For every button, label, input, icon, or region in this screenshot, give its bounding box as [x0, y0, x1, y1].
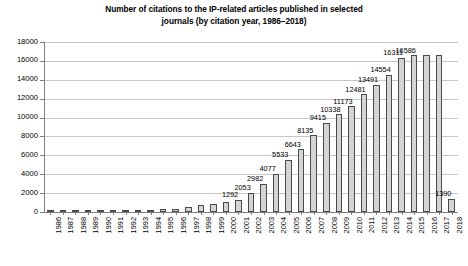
bar-value-label: 1390: [426, 190, 460, 198]
bar[interactable]: [210, 204, 217, 212]
x-tick-label-1993: 1993: [141, 217, 150, 233]
bar-slot: [420, 42, 433, 212]
bar-slot: [44, 42, 57, 212]
x-tick-mark-2011: [364, 212, 365, 215]
bar-slot: [157, 42, 170, 212]
bar-slot: [94, 42, 107, 212]
bar[interactable]: [448, 199, 455, 212]
bar[interactable]: [348, 106, 355, 212]
x-tick-label-2016: 2016: [430, 217, 439, 233]
x-tick-mark-1992: [126, 212, 127, 215]
bar[interactable]: [323, 123, 330, 212]
bar[interactable]: [361, 94, 368, 212]
bar[interactable]: [310, 135, 317, 212]
y-tick-label-18000: 18000: [0, 38, 38, 46]
x-tick-mark-1996: [176, 212, 177, 215]
bar-value-label: 2982: [238, 175, 272, 183]
bar-slot: [408, 42, 421, 212]
x-tick-label-2003: 2003: [267, 217, 276, 233]
bar-value-label: 2053: [226, 184, 260, 192]
x-tick-label-1994: 1994: [154, 217, 163, 233]
bar[interactable]: [273, 174, 280, 213]
bar-slot: [270, 42, 283, 212]
x-tick-mark-2017: [439, 212, 440, 215]
x-tick-mark-1998: [201, 212, 202, 215]
bar[interactable]: [198, 205, 205, 212]
x-tick-mark-1999: [213, 212, 214, 215]
x-tick-label-2002: 2002: [254, 217, 263, 233]
x-tick-mark-2014: [402, 212, 403, 215]
x-tick-label-1998: 1998: [204, 217, 213, 233]
bar-slot: [144, 42, 157, 212]
x-tick-mark-1990: [100, 212, 101, 215]
x-tick-label-1989: 1989: [91, 217, 100, 233]
bar[interactable]: [398, 58, 405, 212]
x-tick-mark-2008: [326, 212, 327, 215]
bar-slot: [119, 42, 132, 212]
x-tick-label-2009: 2009: [342, 217, 351, 233]
x-tick-label-2011: 2011: [367, 217, 376, 233]
bar[interactable]: [386, 75, 393, 212]
x-tick-label-1990: 1990: [104, 217, 113, 233]
y-tick-label-10000: 10000: [0, 113, 38, 121]
y-tick-label-6000: 6000: [0, 151, 38, 159]
bar[interactable]: [411, 55, 418, 212]
bar-value-label: 4077: [251, 165, 285, 173]
x-tick-mark-2016: [427, 212, 428, 215]
bar-value-label: 1292: [213, 191, 247, 199]
chart-title-line-2: journals (by citation year, 1986–2018): [162, 16, 307, 26]
x-tick-mark-2010: [351, 212, 352, 215]
y-tick-label-16000: 16000: [0, 56, 38, 64]
x-tick-mark-1994: [151, 212, 152, 215]
x-tick-mark-2002: [251, 212, 252, 215]
bar-slot: [69, 42, 82, 212]
x-tick-mark-1989: [88, 212, 89, 215]
bar-value-label: 12481: [339, 86, 373, 94]
y-tick-label-0: 0: [0, 208, 38, 216]
x-tick-mark-2006: [301, 212, 302, 215]
bar[interactable]: [336, 114, 343, 212]
x-tick-mark-2003: [264, 212, 265, 215]
x-tick-label-2008: 2008: [330, 217, 339, 233]
x-tick-label-2005: 2005: [292, 217, 301, 233]
x-tick-label-2007: 2007: [317, 217, 326, 233]
bar-value-label: 13491: [351, 76, 385, 84]
bar-slot: [182, 42, 195, 212]
x-tick-mark-2013: [389, 212, 390, 215]
chart-title: Number of citations to the IP-related ar…: [34, 4, 434, 27]
bar[interactable]: [285, 160, 292, 212]
bar[interactable]: [423, 55, 430, 212]
x-tick-label-1996: 1996: [179, 217, 188, 233]
bar-value-label: 14554: [364, 66, 398, 74]
bar-slot: [445, 42, 458, 212]
x-tick-label-1991: 1991: [116, 217, 125, 233]
bar-slot: [333, 42, 346, 212]
x-tick-mark-2004: [276, 212, 277, 215]
x-tick-label-2017: 2017: [442, 217, 451, 233]
x-tick-mark-2012: [376, 212, 377, 215]
bar-value-label: 11173: [326, 98, 360, 106]
x-tick-mark-1991: [113, 212, 114, 215]
bar-slot: [195, 42, 208, 212]
x-tick-mark-1986: [50, 212, 51, 215]
x-tick-label-2010: 2010: [355, 217, 364, 233]
bar[interactable]: [248, 193, 255, 212]
x-tick-mark-1997: [188, 212, 189, 215]
bar[interactable]: [235, 200, 242, 212]
bar[interactable]: [223, 202, 230, 212]
y-tick-label-14000: 14000: [0, 75, 38, 83]
citations-bar-chart: Number of citations to the IP-related ar…: [0, 0, 468, 266]
bar[interactable]: [298, 149, 305, 212]
x-tick-mark-1987: [63, 212, 64, 215]
bar[interactable]: [373, 85, 380, 212]
bar-slot: [132, 42, 145, 212]
x-tick-label-2006: 2006: [304, 217, 313, 233]
x-tick-mark-1993: [138, 212, 139, 215]
bar[interactable]: [260, 184, 267, 212]
bar-slot: [345, 42, 358, 212]
x-tick-mark-1995: [163, 212, 164, 215]
x-tick-mark-2000: [226, 212, 227, 215]
x-tick-label-2001: 2001: [242, 217, 251, 233]
chart-title-line-1: Number of citations to the IP-related ar…: [105, 4, 363, 14]
bar-slot: [82, 42, 95, 212]
